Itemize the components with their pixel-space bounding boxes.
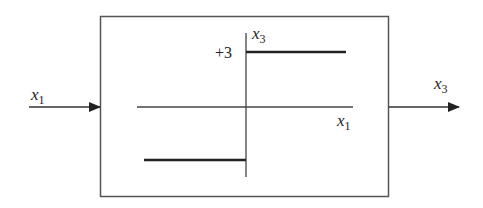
vertical-axis-label: x3 bbox=[251, 24, 266, 46]
input-label: x1 bbox=[30, 85, 45, 107]
block-diagram: x1 x3 x1 x3 +3 bbox=[0, 0, 483, 208]
horizontal-axis-label: x1 bbox=[336, 111, 351, 133]
output-label: x3 bbox=[433, 74, 448, 96]
level-label: +3 bbox=[215, 44, 232, 61]
